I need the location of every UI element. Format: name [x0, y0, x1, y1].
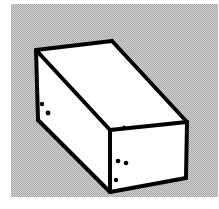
speckle-top-1: [122, 125, 125, 128]
figure-canvas: [0, 0, 219, 209]
edge-right-vertical: [186, 122, 187, 178]
speckle-front-2: [124, 161, 129, 166]
box-illustration: [0, 0, 219, 209]
speckle-left-1: [40, 102, 44, 106]
speckle-front-1: [116, 159, 121, 164]
speckle-front-3: [114, 178, 118, 182]
speckle-left-2: [46, 111, 51, 116]
edge-left-vertical: [36, 50, 38, 120]
